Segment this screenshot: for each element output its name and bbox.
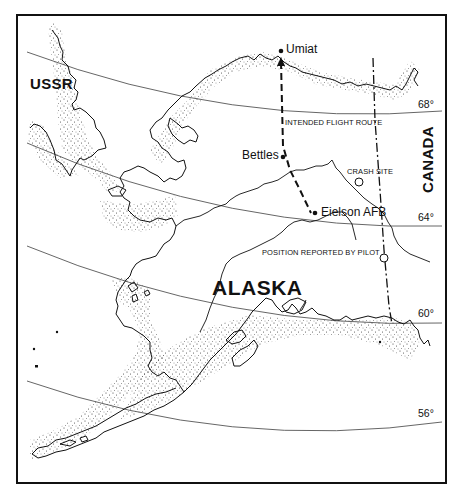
tanana-river bbox=[200, 212, 356, 332]
bettles-label: Bettles bbox=[242, 149, 279, 161]
canada-label: CANADA bbox=[420, 126, 435, 193]
latitude-lines bbox=[27, 52, 442, 431]
ussr-label: USSR bbox=[30, 76, 73, 91]
coastal-stipple bbox=[28, 22, 420, 460]
coastlines bbox=[30, 30, 430, 458]
latitude-label-68: 68° bbox=[418, 99, 434, 110]
latitude-label-56: 56° bbox=[418, 408, 434, 419]
reported-position-label: POSITION REPORTED BY PILOT bbox=[262, 249, 380, 257]
intended-flight-route bbox=[281, 62, 311, 213]
intended-route-label: INTENDED FLIGHT ROUTE bbox=[285, 119, 382, 127]
reported-position-marker-icon bbox=[380, 254, 388, 262]
crash-site-label: CRASH SITE bbox=[347, 168, 393, 176]
crash-site-marker-icon bbox=[355, 178, 363, 186]
latitude-label-60: 60° bbox=[418, 308, 434, 319]
umiat-label: Umiat bbox=[286, 43, 317, 55]
rivers bbox=[176, 160, 430, 332]
alaska-label: ALASKA bbox=[212, 277, 303, 298]
umiat-marker-icon bbox=[279, 49, 284, 54]
latitude-label-64: 64° bbox=[418, 212, 434, 223]
eielson-afb-label: Eielson AFB bbox=[321, 206, 386, 218]
bettles-marker-icon bbox=[281, 155, 286, 160]
eielson-marker-icon bbox=[313, 211, 318, 216]
